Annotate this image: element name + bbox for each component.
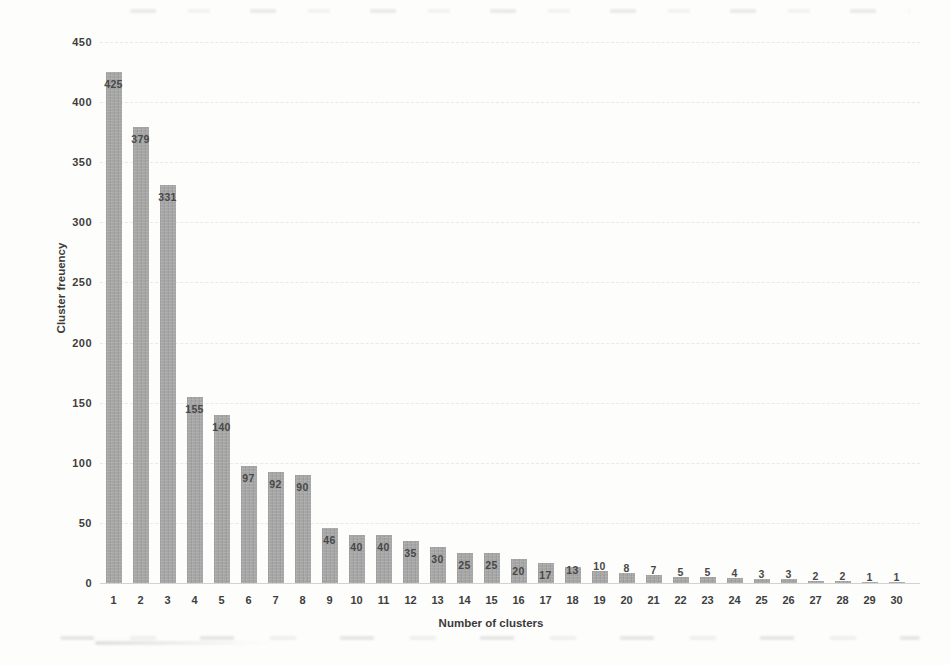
bar [214,415,230,583]
x-tick-label: 24 [720,594,750,606]
bar-value-label: 7 [639,564,669,576]
y-tick-label: 150 [30,397,92,409]
x-tick-label: 23 [693,594,723,606]
plot-area: 0501001502002503003504004504251379233131… [0,0,950,665]
x-tick-label: 3 [153,594,183,606]
y-tick-label: 0 [30,577,92,589]
bar-value-label: 46 [315,534,345,546]
gridline [100,403,920,404]
bar-value-label: 5 [666,566,696,578]
bar-value-label: 3 [747,568,777,580]
y-tick-label: 400 [30,96,92,108]
y-tick-label: 100 [30,457,92,469]
x-tick-label: 1 [99,594,129,606]
bar-value-label: 13 [558,564,588,576]
gridline [100,222,920,223]
bar-value-label: 40 [369,541,399,553]
y-axis-title: Cluster freuency [55,243,67,334]
bar-value-label: 155 [180,403,210,415]
x-tick-label: 19 [585,594,615,606]
scanned-bar-chart-page: 0501001502002503003504004504251379233131… [0,0,950,665]
x-tick-label: 14 [450,594,480,606]
bar-value-label: 25 [450,559,480,571]
x-tick-label: 9 [315,594,345,606]
bar [592,571,608,583]
bar-value-label: 2 [801,570,831,582]
bar-value-label: 90 [288,481,318,493]
bar [646,575,662,583]
bar-value-label: 140 [207,421,237,433]
bar-value-label: 92 [261,478,291,490]
bar-value-label: 40 [342,541,372,553]
x-tick-label: 27 [801,594,831,606]
x-tick-label: 17 [531,594,561,606]
x-tick-label: 4 [180,594,210,606]
bar-value-label: 10 [585,560,615,572]
x-tick-label: 22 [666,594,696,606]
bar-value-label: 30 [423,553,453,565]
x-tick-label: 20 [612,594,642,606]
x-tick-label: 15 [477,594,507,606]
bar-value-label: 4 [720,567,750,579]
bar [619,573,635,583]
x-tick-label: 13 [423,594,453,606]
x-tick-label: 28 [828,594,858,606]
x-axis-line [100,583,920,584]
gridline [100,162,920,163]
x-tick-label: 10 [342,594,372,606]
bar-value-label: 97 [234,472,264,484]
x-tick-label: 18 [558,594,588,606]
bar-value-label: 331 [153,191,183,203]
y-tick-label: 200 [30,337,92,349]
gridline [100,282,920,283]
gridline [100,42,920,43]
bar-value-label: 25 [477,559,507,571]
gridline [100,343,920,344]
x-tick-label: 6 [234,594,264,606]
x-tick-label: 5 [207,594,237,606]
x-axis-title: Number of clusters [439,617,544,629]
bar-value-label: 17 [531,569,561,581]
bar-value-label: 1 [855,571,885,583]
bar-value-label: 379 [126,133,156,145]
y-tick-label: 450 [30,36,92,48]
x-tick-label: 8 [288,594,318,606]
bar [133,127,149,583]
gridline [100,102,920,103]
bar-value-label: 20 [504,565,534,577]
bar-value-label: 1 [882,571,912,583]
x-tick-label: 21 [639,594,669,606]
x-tick-label: 7 [261,594,291,606]
x-tick-label: 2 [126,594,156,606]
x-tick-label: 16 [504,594,534,606]
bar-value-label: 5 [693,566,723,578]
x-tick-label: 29 [855,594,885,606]
bar-value-label: 425 [99,78,129,90]
y-tick-label: 300 [30,216,92,228]
x-tick-label: 11 [369,594,399,606]
x-tick-label: 12 [396,594,426,606]
bar-value-label: 35 [396,547,426,559]
bar-value-label: 3 [774,568,804,580]
x-tick-label: 30 [882,594,912,606]
bar-value-label: 2 [828,570,858,582]
bar [187,397,203,583]
y-tick-label: 350 [30,156,92,168]
bar [160,185,176,583]
bar-value-label: 8 [612,562,642,574]
x-tick-label: 26 [774,594,804,606]
y-tick-label: 50 [30,517,92,529]
x-tick-label: 25 [747,594,777,606]
bar [106,72,122,583]
